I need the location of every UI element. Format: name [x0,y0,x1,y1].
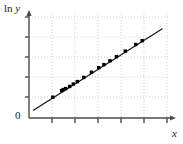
data-point [64,87,67,90]
data-point [68,85,71,88]
data-point [82,76,85,79]
data-point [72,82,75,85]
y-axis-label-prefix: ln [4,2,15,14]
data-point [97,66,100,69]
data-point [115,55,118,58]
data-point [51,96,54,99]
data-point [90,71,93,74]
y-axis-label-variable: y [15,2,20,14]
origin-label: 0 [15,110,21,121]
data-point [108,59,111,62]
x-axis-label: x [172,128,177,139]
semilog-scatter-figure: ln y x 0 [0,0,183,144]
data-point [134,43,137,46]
data-point [141,39,144,42]
y-axis-label: ln y [4,3,20,14]
data-point [102,63,105,66]
plot-canvas [0,0,183,144]
data-point [76,80,79,83]
data-point [124,49,127,52]
